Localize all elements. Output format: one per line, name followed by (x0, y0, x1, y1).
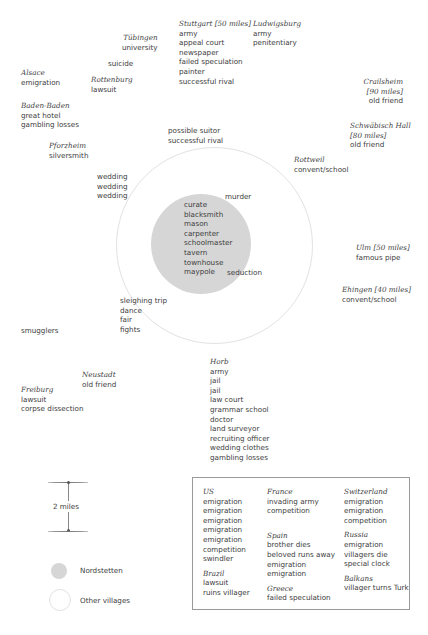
event-line: convent/school (294, 165, 348, 175)
place-name: Stuttgart [50 miles] (179, 19, 251, 29)
place-name: Ehingen [40 miles] (342, 285, 411, 295)
scale-label: 2 miles (52, 501, 80, 512)
country-name: France (267, 487, 335, 497)
country-name: Switzerland (344, 487, 409, 497)
place-name: Ulm [50 miles] (356, 243, 410, 253)
event-murder: murder (225, 192, 251, 202)
center-item: carpenter (184, 229, 232, 239)
place-rottweil: Rottweil convent/school (294, 155, 348, 174)
event-line: successful rival (168, 136, 223, 146)
event-line: famous pipe (356, 253, 410, 263)
event-line: wedding (97, 172, 128, 182)
place-distance: [90 miles] (363, 87, 403, 97)
event-line: land surveyor (210, 424, 270, 434)
event-line: emigration (21, 78, 60, 88)
place-stuttgart: Stuttgart [50 miles] army appeal court n… (179, 19, 251, 86)
abroad-column-2: France invading army competition Spain b… (267, 487, 335, 608)
place-distance: [80 miles] (350, 131, 411, 141)
event-line: fair (120, 315, 167, 325)
event-line: emigration (203, 497, 250, 507)
event-line: university (122, 43, 158, 53)
event-line: army (253, 29, 301, 39)
event-line: villager turns Turk (344, 583, 409, 593)
event-line: wedding (97, 182, 128, 192)
center-item: townhouse (184, 258, 232, 268)
event-line: fights (120, 325, 167, 335)
event-line: emigration (203, 516, 250, 526)
event-line: old friend (82, 380, 116, 390)
country-russia: Russia emigration villagers die special … (344, 530, 409, 568)
place-schwabisch-hall: Schwäbisch Hall [80 miles] old friend (350, 121, 411, 150)
place-neustadt: Neustadt old friend (82, 370, 116, 389)
country-greece: Greece failed speculation (267, 584, 335, 603)
place-name: Tübingen (122, 33, 158, 43)
event-line: wedding clothes (210, 443, 270, 453)
place-name: Crailsheim (363, 77, 403, 87)
event-line: army (179, 29, 251, 39)
place-crailsheim: Crailsheim [90 miles] old friend (363, 77, 403, 106)
place-name: Rottweil (294, 155, 348, 165)
event-possible-suitor: possible suitor successful rival (168, 126, 223, 145)
country-name: US (203, 487, 250, 497)
event-line: emigration (267, 569, 335, 579)
center-item: mason (184, 219, 232, 229)
event-line: jail (210, 376, 270, 386)
place-name: Schwäbisch Hall (350, 121, 411, 131)
event-line: beloved runs away (267, 550, 335, 560)
country-brazil: Brazil lawsuit ruins villager (203, 569, 250, 598)
event-line: ruins villager (203, 588, 250, 598)
place-name: Horb (210, 357, 270, 367)
event-line: old friend (363, 96, 403, 106)
event-line: wedding (97, 191, 128, 201)
event-line: emigration (267, 560, 335, 570)
abroad-box: US emigration emigration emigration emig… (192, 477, 410, 610)
place-alsace: Alsace emigration (21, 68, 60, 87)
event-line: competition (344, 516, 409, 526)
event-line: convent/school (342, 295, 411, 305)
event-line: emigration (344, 506, 409, 516)
country-name: Russia (344, 530, 409, 540)
event-line: lawsuit (203, 578, 250, 588)
event-line: successful rival (179, 77, 251, 87)
country-spain: Spain brother dies beloved runs away emi… (267, 531, 335, 579)
country-switzerland: Switzerland emigration emigration compet… (344, 487, 409, 525)
center-item: blacksmith (184, 210, 232, 220)
country-name: Balkans (344, 574, 409, 584)
other-villages-swatch (49, 589, 71, 611)
event-line: silversmith (49, 151, 89, 161)
nordstetten-swatch (51, 563, 67, 579)
place-baden-baden: Baden-Baden great hotel gambling losses (21, 101, 79, 130)
scale-tick-top (67, 481, 70, 484)
place-name: Ludwigsburg (253, 19, 301, 29)
abroad-column-3: Switzerland emigration emigration compet… (344, 487, 409, 598)
event-line: villagers die (344, 550, 409, 560)
event-line: emigration (203, 506, 250, 516)
event-line: lawsuit (91, 85, 133, 95)
country-us: US emigration emigration emigration emig… (203, 487, 250, 564)
place-ehingen: Ehingen [40 miles] convent/school (342, 285, 411, 304)
event-line: lawsuit (21, 395, 84, 405)
event-line: gambling losses (21, 120, 79, 130)
event-line: possible suitor (168, 126, 223, 136)
event-line: failed speculation (267, 593, 335, 603)
event-line: brother dies (267, 540, 335, 550)
place-name: Baden-Baden (21, 101, 79, 111)
place-rottenburg: Rottenburg lawsuit (91, 75, 133, 94)
event-line: emigration (344, 540, 409, 550)
place-name: Freiburg (21, 385, 84, 395)
center-item: tavern (184, 248, 232, 258)
country-name: Spain (267, 531, 335, 541)
place-tubingen: Tübingen university (122, 33, 158, 52)
event-line: dance (120, 306, 167, 316)
event-line: corpse dissection (21, 404, 84, 414)
country-name: Greece (267, 584, 335, 594)
nordstetten-items: curate blacksmith mason carpenter school… (184, 200, 232, 277)
event-line: emigration (203, 535, 250, 545)
event-line: swindler (203, 554, 250, 564)
center-item: schoolmaster (184, 238, 232, 248)
event-line: newspaper (179, 48, 251, 58)
event-line: emigration (344, 497, 409, 507)
place-horb: Horb army jail jail law court grammar sc… (210, 357, 270, 463)
nordstetten-key-label: Nordstetten (80, 566, 123, 575)
event-line: failed speculation (179, 57, 251, 67)
